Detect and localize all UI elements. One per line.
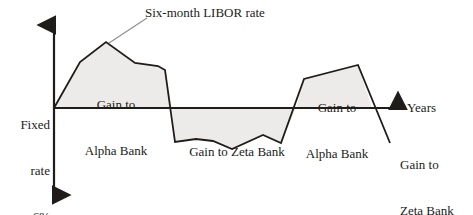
y-axis-label: Fixed rate 6% xyxy=(2,86,50,215)
callout-leader-line xyxy=(109,18,147,43)
region-label-alpha-bank-1: Gain to Alpha Bank xyxy=(62,66,170,189)
region-label-alpha-bank-1-line2: Alpha Bank xyxy=(62,143,170,158)
x-axis-label: Years xyxy=(407,100,436,115)
region-label-alpha-bank-1-line1: Gain to xyxy=(62,97,170,112)
region-label-zeta-bank-1-line1: Gain to Zeta Bank xyxy=(176,144,298,159)
region-label-alpha-bank-2-line1: Gain to xyxy=(300,100,374,115)
region-label-alpha-bank-2: Gain to Alpha Bank xyxy=(300,69,374,192)
region-label-zeta-bank-2-line2: Zeta Bank xyxy=(400,203,472,215)
y-axis-label-line2: rate xyxy=(2,163,50,178)
y-axis-label-line3: 6% xyxy=(2,209,50,215)
region-label-zeta-bank-2-line1: Gain to xyxy=(400,157,472,172)
region-label-zeta-bank-1: Gain to Zeta Bank xyxy=(176,113,298,190)
libor-swap-diagram: Fixed rate 6% Years Six-month LIBOR rate… xyxy=(0,0,473,215)
y-axis-label-line1: Fixed xyxy=(2,117,50,132)
region-label-alpha-bank-2-line2: Alpha Bank xyxy=(300,146,374,161)
callout-libor-label: Six-month LIBOR rate xyxy=(145,5,265,20)
region-label-zeta-bank-2: Gain to Zeta Bank xyxy=(400,126,472,215)
